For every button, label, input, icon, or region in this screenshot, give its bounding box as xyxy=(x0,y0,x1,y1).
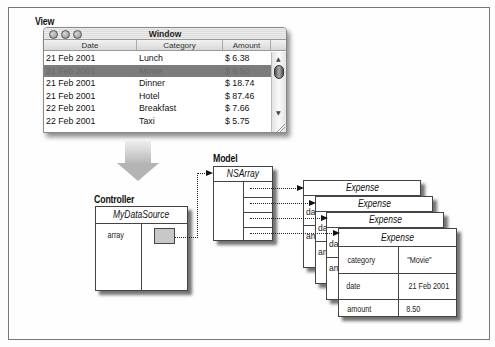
cell-date: 21 Feb 2001 xyxy=(44,52,137,65)
table-window: Window Date Category Amount 21 Feb 2001 … xyxy=(43,27,287,133)
pointer-line xyxy=(197,173,198,238)
column-header: Date Category Amount xyxy=(44,40,286,51)
cell-amount: $ 5.75 xyxy=(223,115,271,128)
cell-category: Hotel xyxy=(137,90,223,103)
arrowhead-icon xyxy=(321,215,328,221)
column-header-date[interactable]: Date xyxy=(44,40,137,50)
array-field-label: array xyxy=(106,230,125,240)
pointer-line xyxy=(250,188,298,189)
expense-card-divider xyxy=(398,247,399,316)
column-header-corner xyxy=(271,40,286,50)
table-row[interactable]: 21 Feb 2001 Dinner $ 18.74 xyxy=(44,77,271,90)
cell-category: Lunch xyxy=(137,52,223,65)
arrowhead-icon xyxy=(333,230,340,236)
table-body: 21 Feb 2001 Lunch $ 6.38 21 Feb 2001 Mov… xyxy=(44,52,271,128)
expense-card-title: Expense xyxy=(304,181,420,196)
cell-amount: $ 7.66 xyxy=(223,102,271,115)
expense-card-front: Expense category "Movie" date 21 Feb 200… xyxy=(338,228,457,317)
field-key-category: category xyxy=(345,255,378,265)
cell-category: Taxi xyxy=(137,115,223,128)
field-value-amount: 8.50 xyxy=(405,304,422,314)
field-key-amount: amount xyxy=(345,304,373,314)
cell-date: 21 Feb 2001 xyxy=(44,90,137,103)
controller-label: Controller xyxy=(94,194,134,205)
column-header-category[interactable]: Category xyxy=(137,40,223,50)
table-row[interactable]: 21 Feb 2001 Lunch $ 6.38 xyxy=(44,52,271,65)
window-title: Window xyxy=(44,28,286,40)
table-row-selected[interactable]: 21 Feb 2001 Movie $ 8.50 xyxy=(44,65,271,78)
arrowhead-icon xyxy=(309,200,316,206)
pointer-line xyxy=(250,233,334,234)
expense-card-title: Expense xyxy=(316,197,432,212)
table-row[interactable]: 22 Feb 2001 Taxi $ 5.75 xyxy=(44,115,271,128)
field-value-date: 21 Feb 2001 xyxy=(405,281,453,291)
pointer-line xyxy=(250,203,310,204)
down-arrow-icon xyxy=(125,139,151,163)
controller-box-title: MyDataSource xyxy=(96,207,187,224)
scroll-thumb[interactable] xyxy=(274,65,284,79)
card-row-divider xyxy=(339,273,456,274)
scroll-down-arrow-icon[interactable]: ▼ xyxy=(276,109,281,116)
arrowhead-icon xyxy=(206,170,213,176)
down-arrow-head-icon xyxy=(117,163,159,181)
field-value-category: "Movie" xyxy=(405,255,434,265)
cell-date: 22 Feb 2001 xyxy=(44,102,137,115)
nsarray-slot-divider xyxy=(243,197,272,198)
pointer-line xyxy=(250,218,322,219)
nsarray-box-title: NSArray xyxy=(214,167,272,182)
resize-grip-icon[interactable] xyxy=(275,122,285,132)
column-header-amount[interactable]: Amount xyxy=(223,40,271,50)
expense-card-title: Expense xyxy=(327,213,443,228)
cell-amount: $ 6.38 xyxy=(223,52,271,65)
card-row-divider xyxy=(339,299,456,300)
table-row[interactable]: 22 Feb 2001 Breakfast $ 7.66 xyxy=(44,102,271,115)
cell-category: Dinner xyxy=(137,77,223,90)
expense-card-title: Expense xyxy=(339,229,456,247)
scroll-up-arrow-icon[interactable]: ▲ xyxy=(276,55,281,62)
vertical-scrollbar[interactable]: ▲ ▼ xyxy=(271,52,286,133)
cell-date: 21 Feb 2001 xyxy=(44,65,137,78)
field-key-date: date xyxy=(345,281,362,291)
table-row[interactable]: 21 Feb 2001 Hotel $ 87.46 xyxy=(44,90,271,103)
controller-divider xyxy=(141,224,142,290)
cell-date: 21 Feb 2001 xyxy=(44,77,137,90)
nsarray-divider xyxy=(243,182,244,240)
array-pointer-slot xyxy=(154,228,175,244)
cell-amount: $ 18.74 xyxy=(223,77,271,90)
view-label: View xyxy=(35,16,54,27)
cell-category: Breakfast xyxy=(137,102,223,115)
nsarray-slot-divider xyxy=(243,212,272,213)
cell-category: Movie xyxy=(137,65,223,78)
model-label: Model xyxy=(213,153,238,164)
title-bar[interactable]: Window xyxy=(44,28,286,40)
cell-amount: $ 87.46 xyxy=(223,90,271,103)
controller-box: MyDataSource array xyxy=(95,206,188,291)
cell-date: 22 Feb 2001 xyxy=(44,115,137,128)
nsarray-slot-divider xyxy=(243,227,272,228)
arrowhead-icon xyxy=(297,185,304,191)
pointer-line xyxy=(175,237,198,238)
cell-amount: $ 8.50 xyxy=(223,65,271,78)
